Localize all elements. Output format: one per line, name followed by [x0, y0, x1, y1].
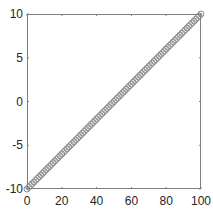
- y-tick-label: 5: [16, 51, 23, 65]
- x-tick-label: 0: [24, 194, 31, 208]
- x-tick-label: 20: [55, 194, 69, 208]
- x-tick-labels: 020406080100: [24, 194, 212, 208]
- x-tick-label: 100: [191, 194, 211, 208]
- x-tick-label: 40: [90, 194, 104, 208]
- plot-background: [27, 14, 201, 189]
- y-tick-label: 10: [10, 7, 24, 21]
- plot-area: [27, 14, 201, 189]
- y-tick-label: -10: [6, 182, 24, 196]
- x-tick-label: 80: [160, 194, 174, 208]
- y-tick-labels: -10-50510: [6, 7, 24, 196]
- y-tick-label: 0: [16, 95, 23, 109]
- scatter-chart: 020406080100 -10-50510: [0, 0, 213, 223]
- x-tick-label: 60: [125, 194, 139, 208]
- y-tick-label: -5: [12, 138, 23, 152]
